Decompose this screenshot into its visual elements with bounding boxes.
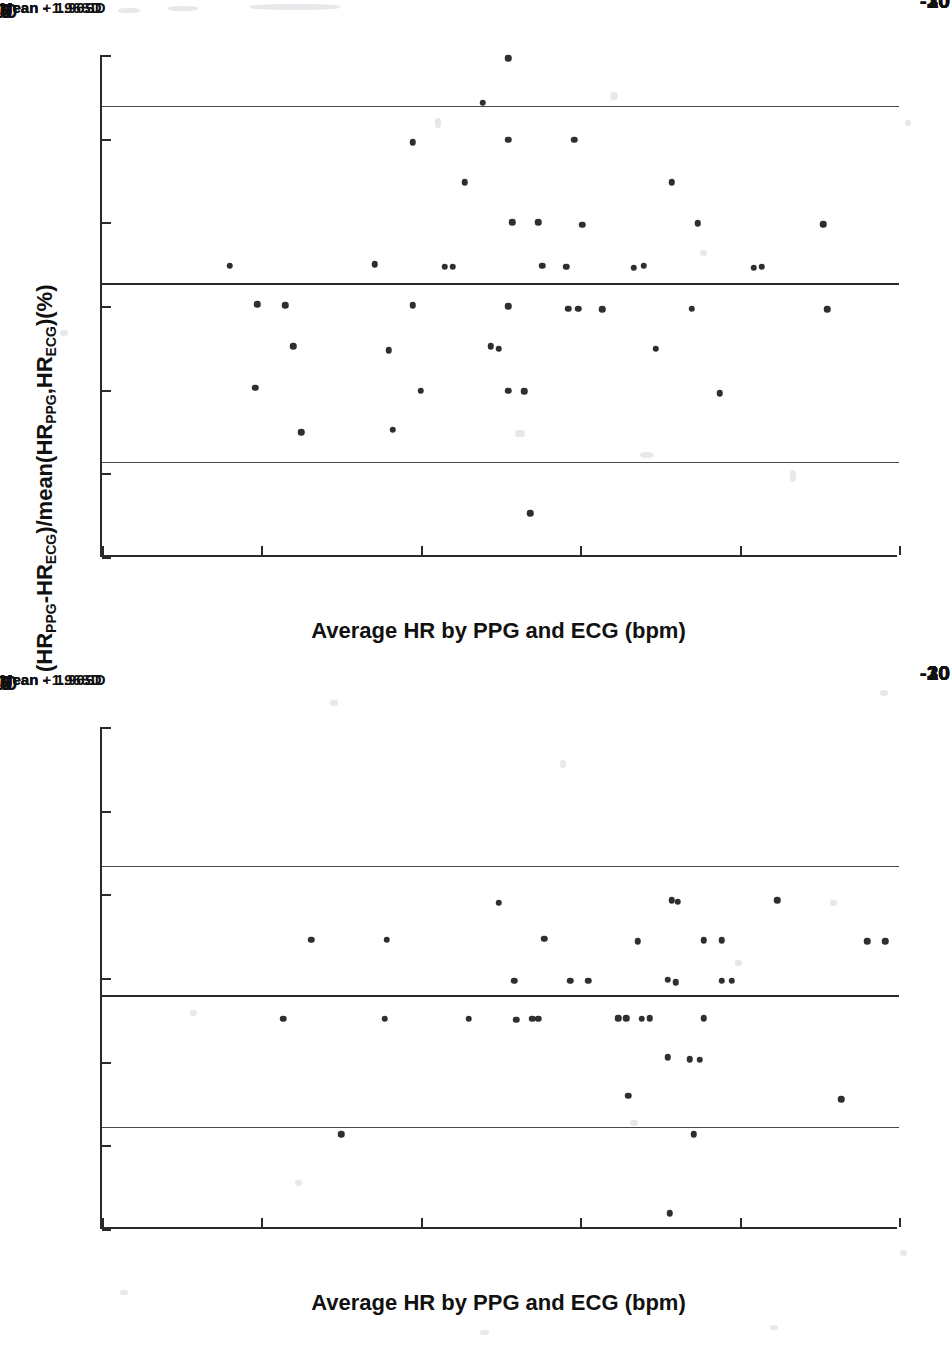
x-tick-top-4 xyxy=(740,546,742,555)
x-axis-title-bottom: Average HR by PPG and ECG (bpm) xyxy=(100,1292,897,1314)
data-point xyxy=(441,263,448,270)
data-point xyxy=(700,1015,707,1022)
reference-line-lower-loa-bottom xyxy=(102,1127,899,1128)
x-tick-top-2 xyxy=(421,546,423,555)
data-point xyxy=(505,387,512,394)
data-point xyxy=(758,263,765,270)
scan-artifact xyxy=(168,6,198,11)
data-point xyxy=(647,1015,654,1022)
x-tick-top-3 xyxy=(580,546,582,555)
data-point xyxy=(567,977,574,984)
data-point xyxy=(487,343,494,350)
scan-artifact xyxy=(515,430,525,437)
data-point xyxy=(641,263,648,270)
data-point xyxy=(535,219,542,226)
y-tick-bottom-2 xyxy=(102,894,111,896)
x-tick-bottom-3 xyxy=(580,1218,582,1227)
data-point xyxy=(585,977,592,984)
y-tick-top-5 xyxy=(102,473,111,475)
data-point xyxy=(282,302,289,309)
y-tick-top-3 xyxy=(102,306,111,308)
y-tick-bottom-4 xyxy=(102,1062,111,1064)
data-point xyxy=(718,937,725,944)
figure-bland-altman-top: Average HR by PPG and ECG (bpm) 3020100-… xyxy=(0,0,950,665)
scan-artifact xyxy=(435,118,441,128)
data-point xyxy=(505,136,512,143)
scan-artifact xyxy=(118,8,140,13)
data-point xyxy=(716,390,723,397)
scan-artifact xyxy=(640,452,654,458)
data-point xyxy=(505,303,512,310)
scan-artifact xyxy=(190,1010,197,1016)
scan-artifact xyxy=(480,1330,489,1335)
data-point xyxy=(382,1016,389,1023)
data-point xyxy=(653,345,660,352)
data-point xyxy=(410,302,417,309)
data-point xyxy=(527,510,534,517)
data-point xyxy=(280,1016,287,1023)
scan-artifact xyxy=(630,1120,638,1126)
data-point xyxy=(541,935,548,942)
figure-bland-altman-bottom: Average HR by PPG and ECG (bpm) 3020100-… xyxy=(0,672,950,1356)
reference-line-mean-bottom xyxy=(102,995,899,997)
x-tick-bottom-5 xyxy=(899,1218,901,1227)
data-point xyxy=(252,385,259,392)
x-tick-top-0 xyxy=(102,546,104,555)
y-axis-title-text-bottom: (HRPPG-HRECG)/mean(HRPPG,HRECG)(%) xyxy=(34,284,56,672)
reference-line-label-lower-loa-bottom: Mean - 1.96SD xyxy=(0,672,102,687)
data-point xyxy=(675,899,682,906)
data-point xyxy=(495,899,502,906)
y-tick-top-6 xyxy=(102,557,111,559)
scan-artifact xyxy=(60,330,68,336)
scan-artifact xyxy=(880,690,888,696)
data-point xyxy=(599,306,606,313)
data-point xyxy=(691,1131,698,1138)
data-point xyxy=(728,977,735,984)
y-tick-top-2 xyxy=(102,222,111,224)
data-point xyxy=(623,1015,630,1022)
reference-line-label-lower-loa-top: Mean - 1.96SD xyxy=(0,0,102,15)
data-point xyxy=(505,55,512,62)
data-point xyxy=(687,1056,694,1063)
data-point xyxy=(226,263,233,270)
x-axis-title-top: Average HR by PPG and ECG (bpm) xyxy=(100,620,897,642)
scan-artifact xyxy=(250,4,340,10)
scan-artifact xyxy=(560,760,566,768)
data-point xyxy=(625,1093,632,1100)
data-point xyxy=(290,343,297,350)
data-point xyxy=(390,427,397,434)
data-point xyxy=(665,976,672,983)
scan-artifact xyxy=(770,1325,778,1330)
data-point xyxy=(539,263,546,270)
data-point xyxy=(535,1016,542,1023)
data-point xyxy=(718,977,725,984)
data-point xyxy=(254,301,261,308)
reference-line-upper-loa-bottom xyxy=(102,866,899,867)
scan-artifact xyxy=(830,900,837,906)
plot-area-top xyxy=(100,55,897,557)
data-point xyxy=(521,388,528,395)
data-point xyxy=(774,897,781,904)
reference-line-upper-loa-top xyxy=(102,106,899,107)
data-point xyxy=(495,345,502,352)
x-tick-bottom-2 xyxy=(421,1218,423,1227)
data-point xyxy=(298,429,305,436)
data-point xyxy=(669,179,676,186)
data-point xyxy=(372,261,379,268)
data-point xyxy=(511,977,518,984)
data-point xyxy=(750,264,757,271)
data-point xyxy=(418,387,425,394)
scan-artifact xyxy=(735,960,742,966)
data-point xyxy=(465,1016,472,1023)
scan-artifact xyxy=(330,700,338,706)
data-point xyxy=(571,136,578,143)
scan-artifact xyxy=(610,92,618,100)
y-tick-bottom-1 xyxy=(102,811,111,813)
data-point xyxy=(665,1054,672,1061)
x-tick-bottom-4 xyxy=(740,1218,742,1227)
data-point xyxy=(384,936,391,943)
x-tick-top-1 xyxy=(261,546,263,555)
data-point xyxy=(639,1016,646,1023)
scan-artifact xyxy=(790,470,796,482)
data-point xyxy=(838,1096,845,1103)
